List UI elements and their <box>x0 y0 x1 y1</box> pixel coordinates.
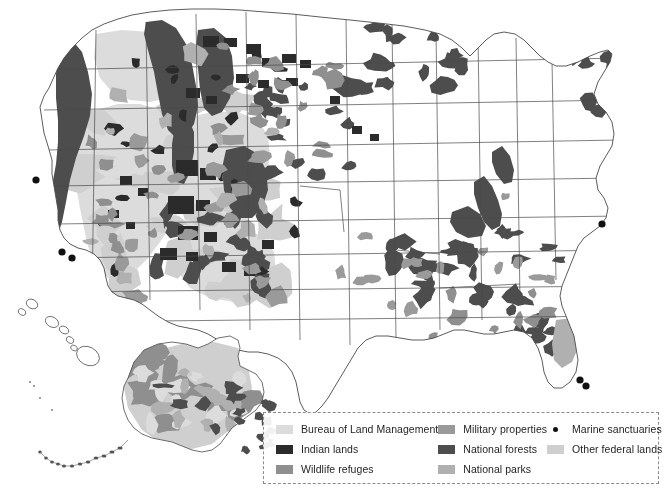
map-legend: Bureau of Land Management Indian lands W… <box>263 412 659 484</box>
legend-item-national-parks: National parks <box>438 460 547 479</box>
wildlife-refuges-swatch-icon <box>276 465 293 474</box>
legend-label: Other federal lands <box>572 444 662 455</box>
legend-column-1: Bureau of Land Management Indian lands W… <box>276 420 438 480</box>
military-properties-swatch-icon <box>438 425 455 434</box>
legend-item-indian-lands: Indian lands <box>276 440 438 459</box>
national-forests-swatch-icon <box>438 445 455 454</box>
legend-item-wildlife-refuges: Wildlife refuges <box>276 460 438 479</box>
legend-item-military-properties: Military properties <box>438 420 547 439</box>
federal-lands-map-figure: Bureau of Land Management Indian lands W… <box>0 0 667 492</box>
legend-label: Military properties <box>463 424 547 435</box>
national-parks-swatch-icon <box>438 465 455 474</box>
legend-item-bureau-of-land-management: Bureau of Land Management <box>276 420 438 439</box>
legend-label: Bureau of Land Management <box>301 424 438 435</box>
legend-column-2: Military properties National forests Nat… <box>438 420 547 480</box>
legend-item-other-federal-lands: Other federal lands <box>547 440 662 459</box>
legend-label: National forests <box>463 444 537 455</box>
legend-label: Marine sanctuaries <box>572 424 662 435</box>
legend-column-3: Marine sanctuaries Other federal lands <box>547 420 662 460</box>
marine-sanctuary-dot-icon <box>547 425 564 434</box>
other-federal-lands-swatch-icon <box>547 445 564 454</box>
legend-label: Indian lands <box>301 444 358 455</box>
indian-lands-swatch-icon <box>276 445 293 454</box>
legend-item-marine-sanctuaries: Marine sanctuaries <box>547 420 662 439</box>
legend-label: National parks <box>463 464 531 475</box>
legend-label: Wildlife refuges <box>301 464 374 475</box>
bureau-of-land-management-swatch-icon <box>276 425 293 434</box>
legend-item-national-forests: National forests <box>438 440 547 459</box>
